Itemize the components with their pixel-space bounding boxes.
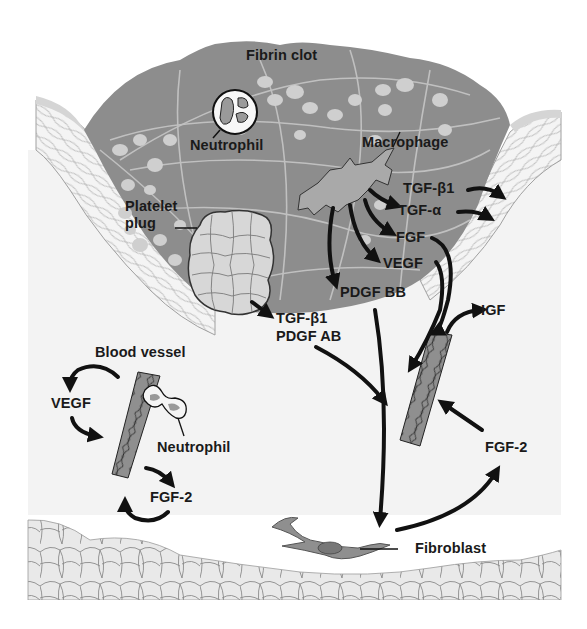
label-vegf-macrophage: VEGF bbox=[383, 256, 423, 271]
label-neutrophil-top: Neutrophil bbox=[190, 138, 264, 153]
label-tgf-b1-macrophage: TGF-β1 bbox=[403, 181, 454, 196]
label-vegf-left: VEGF bbox=[51, 396, 91, 411]
label-fgf2-right: FGF-2 bbox=[485, 440, 527, 455]
label-macrophage: Macrophage bbox=[362, 135, 448, 150]
label-neutrophil-vessel: Neutrophil bbox=[157, 440, 231, 455]
label-blood-vessel: Blood vessel bbox=[95, 345, 186, 360]
label-tgf-b1-platelet: TGF-β1 bbox=[276, 311, 327, 326]
label-igf: IGF bbox=[481, 303, 505, 318]
label-fibroblast: Fibroblast bbox=[415, 541, 486, 556]
label-platelet-plug-1: Platelet bbox=[125, 199, 177, 214]
label-pdgf-bb: PDGF BB bbox=[340, 285, 406, 300]
label-tgf-alpha: TGF-α bbox=[398, 203, 441, 218]
label-fgf: FGF bbox=[396, 230, 425, 245]
fibroblast-cell bbox=[272, 517, 398, 558]
label-platelet-plug-2: plug bbox=[125, 216, 156, 231]
label-pdgf-ab: PDGF AB bbox=[276, 329, 341, 344]
label-fibrin-clot: Fibrin clot bbox=[246, 48, 317, 63]
label-fgf2-left: FGF-2 bbox=[150, 490, 192, 505]
